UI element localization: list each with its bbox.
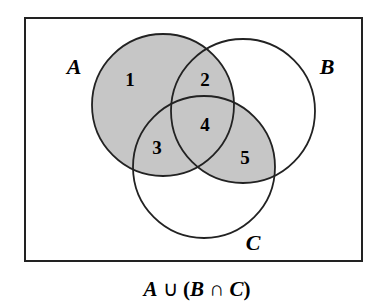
region-label-2: 2 xyxy=(200,69,210,90)
region-label-1: 1 xyxy=(125,69,135,90)
region-label-5: 5 xyxy=(240,147,250,168)
caption: A ∪ (B ∩ C) xyxy=(141,277,250,301)
region-label-3: 3 xyxy=(152,137,162,158)
venn-diagram: A B C 1 2 3 4 5 A ∪ (B ∩ C) A ∪ (B ∩ C) xyxy=(0,0,380,307)
set-label-a: A xyxy=(65,54,82,79)
region-label-4: 4 xyxy=(200,114,210,135)
set-label-b: B xyxy=(319,54,335,79)
set-label-c: C xyxy=(246,230,261,255)
